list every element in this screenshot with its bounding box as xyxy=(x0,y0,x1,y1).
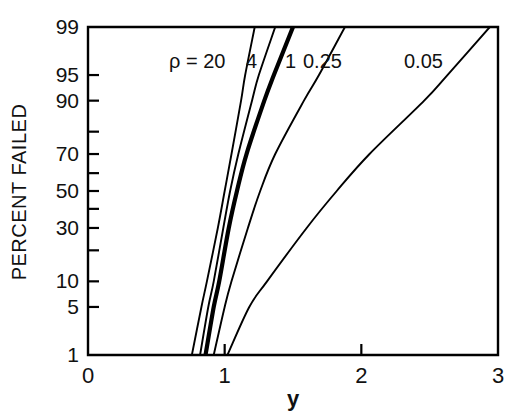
y-tick-label: 5 xyxy=(67,295,79,318)
curve-label-1: 1 xyxy=(285,50,296,72)
y-tick-label: 1 xyxy=(67,343,79,366)
x-tick-label: 3 xyxy=(492,363,504,388)
x-axis-title: y xyxy=(287,386,300,411)
y-tick-label: 99 xyxy=(56,15,79,38)
probability-plot-figure: 9995907050301051 0123 ρ = 20410.250.05 y… xyxy=(0,0,525,415)
y-tick-label: 70 xyxy=(56,142,79,165)
y-tick-label: 95 xyxy=(56,63,79,86)
y-tick-label: 30 xyxy=(56,216,79,239)
y-tick-label: 90 xyxy=(56,89,79,112)
chart-canvas: 9995907050301051 0123 ρ = 20410.250.05 y… xyxy=(0,0,525,415)
rho-legend: ρ = 20 xyxy=(169,50,225,72)
y-tick-label: 10 xyxy=(56,269,79,292)
x-tick-label: 2 xyxy=(355,363,367,388)
y-axis-title: PERCENT FAILED xyxy=(8,104,30,281)
x-tick-label: 0 xyxy=(82,363,94,388)
curve-label-005: 0.05 xyxy=(404,50,443,72)
curve-label-025: 0.25 xyxy=(303,50,342,72)
x-tick-label: 1 xyxy=(219,363,231,388)
y-tick-label: 50 xyxy=(56,179,79,202)
curve-label-4: 4 xyxy=(246,50,257,72)
